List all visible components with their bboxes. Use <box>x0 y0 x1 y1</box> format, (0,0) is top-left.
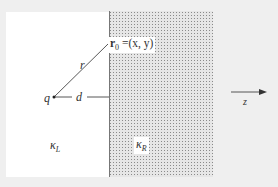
kappa-right-label: κR <box>134 137 149 154</box>
distance-d-label: d <box>76 91 82 103</box>
charge-dot <box>53 96 56 99</box>
z-axis-arrowhead-icon <box>259 89 267 95</box>
point-r0-label: r0 =(x, y) <box>108 37 155 53</box>
diagram-lines <box>0 0 278 187</box>
z-axis-label: z <box>243 97 247 107</box>
r-label: r <box>80 59 85 71</box>
charge-q-label: q <box>44 92 50 104</box>
kappa-left-label: κL <box>50 139 60 154</box>
